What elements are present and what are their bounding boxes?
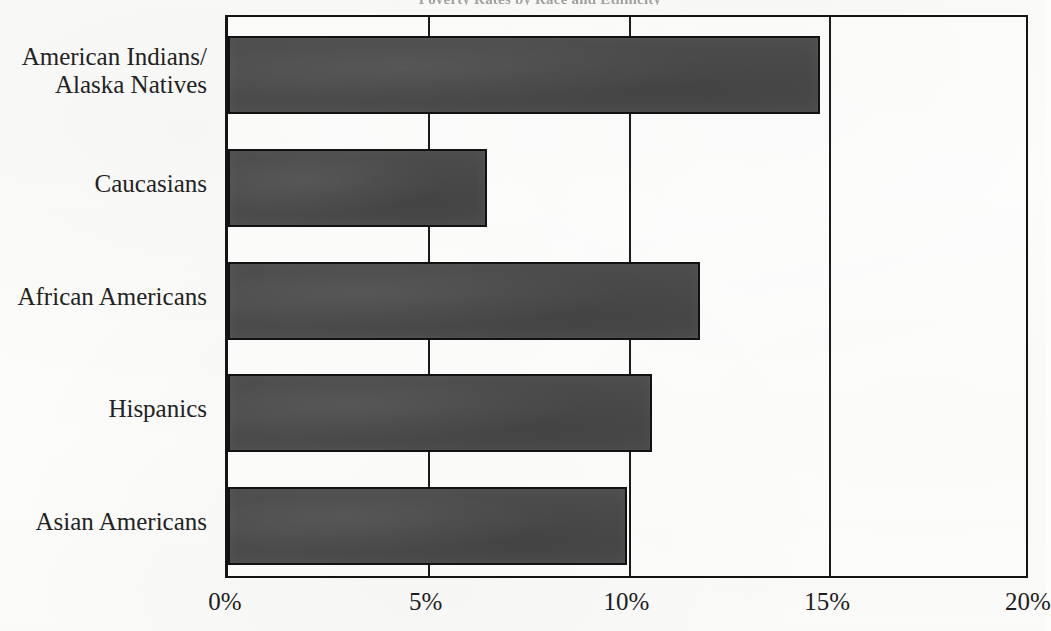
x-tick-label: 5% bbox=[409, 588, 442, 616]
bar bbox=[228, 487, 627, 565]
bar bbox=[228, 149, 487, 227]
category-label-line: Caucasians bbox=[0, 170, 207, 198]
bar bbox=[228, 374, 652, 452]
category-label: African Americans bbox=[0, 283, 215, 311]
category-label-line: American Indians/ bbox=[0, 43, 207, 71]
category-label: American Indians/Alaska Natives bbox=[0, 43, 215, 99]
x-tick-label: 15% bbox=[804, 588, 850, 616]
category-label: Asian Americans bbox=[0, 508, 215, 536]
x-tick-label: 0% bbox=[208, 588, 241, 616]
category-label: Hispanics bbox=[0, 395, 215, 423]
category-label-line: Alaska Natives bbox=[0, 71, 207, 99]
category-label: Caucasians bbox=[0, 170, 215, 198]
x-tick-label: 20% bbox=[1005, 588, 1051, 616]
category-label-line: African Americans bbox=[0, 283, 207, 311]
bar bbox=[228, 262, 700, 340]
category-label-line: Hispanics bbox=[0, 395, 207, 423]
gridline-15pct bbox=[829, 17, 831, 576]
plot-area bbox=[225, 15, 1028, 578]
x-tick-label: 10% bbox=[604, 588, 650, 616]
bar bbox=[228, 36, 820, 114]
category-label-line: Asian Americans bbox=[0, 508, 207, 536]
